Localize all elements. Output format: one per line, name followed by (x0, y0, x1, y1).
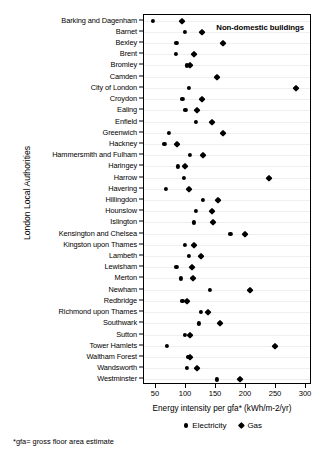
data-point-electricity (228, 232, 232, 236)
x-tick-mark (305, 384, 306, 388)
data-point-electricity (183, 108, 187, 112)
x-tick-mark (185, 384, 186, 388)
y-tick-label: City of London (91, 81, 137, 92)
y-tick-label: Enfield (115, 115, 137, 126)
data-point-gas (216, 320, 222, 326)
grid-line (144, 178, 310, 179)
data-point-gas (199, 29, 205, 35)
x-tick-mark (215, 384, 216, 388)
data-point-electricity (165, 344, 169, 348)
grid-line (144, 301, 310, 302)
y-tick-label: Tower Hamlets (89, 339, 137, 350)
grid-line (144, 290, 310, 291)
grid-line (144, 222, 310, 223)
legend-label-electricity: Electricity (192, 421, 226, 430)
legend-item-gas: Gas (239, 421, 262, 430)
data-point-electricity (185, 366, 189, 370)
data-point-gas (219, 40, 225, 46)
grid-line (144, 368, 310, 369)
x-tick-label: 50 (151, 389, 159, 398)
legend-item-electricity: Electricity (184, 421, 227, 430)
data-point-gas (187, 331, 193, 337)
grid-line (144, 323, 310, 324)
legend-label-gas: Gas (247, 421, 262, 430)
data-point-electricity (199, 310, 203, 314)
x-tick-label: 100 (179, 389, 192, 398)
data-point-gas (266, 174, 272, 180)
grid-line (144, 65, 310, 66)
y-tick-label: Westminster (97, 373, 137, 384)
x-tick-mark (245, 384, 246, 388)
data-point-gas (246, 286, 252, 292)
data-point-gas (204, 309, 210, 315)
grid-line (144, 99, 310, 100)
y-tick-label: Hounslow (105, 205, 137, 216)
data-point-gas (237, 376, 243, 382)
panel-title: Non-domestic buildings (216, 23, 304, 32)
grid-line (144, 211, 310, 212)
y-tick-label: Waltham Forest (87, 350, 137, 361)
data-point-gas (200, 152, 206, 158)
data-point-gas (174, 141, 180, 147)
y-tick-label: Islington (110, 216, 137, 227)
y-tick-label: Greenwich (103, 126, 137, 137)
footnote: *gfa= gross floor area estimate (13, 437, 114, 446)
data-point-gas (210, 219, 216, 225)
data-point-electricity (188, 153, 192, 157)
x-tick-label: 250 (269, 389, 282, 398)
grid-line (144, 245, 310, 246)
y-tick-label: Redbridge (104, 294, 137, 305)
grid-line (144, 122, 310, 123)
y-tick-label: Lambeth (109, 250, 137, 261)
y-axis-title: London Local Authorities (22, 113, 32, 273)
data-point-electricity (201, 198, 205, 202)
data-point-electricity (215, 377, 219, 381)
y-tick-label: Lewisham (105, 261, 137, 272)
data-point-gas (191, 242, 197, 248)
data-point-gas (191, 51, 197, 57)
grid-line (144, 278, 310, 279)
data-point-electricity (162, 142, 166, 146)
grid-line (144, 110, 310, 111)
y-tick-label: Bromley (111, 59, 137, 70)
y-tick-label: Southwark (103, 317, 137, 328)
y-tick-label: Haringey (108, 160, 137, 171)
data-point-gas (186, 62, 192, 68)
x-tick-mark (155, 384, 156, 388)
grid-line (144, 166, 310, 167)
y-tick-label: Merton (115, 272, 137, 283)
data-point-electricity (183, 243, 187, 247)
y-tick-label: Newham (108, 283, 137, 294)
y-tick-label: Barnet (116, 25, 137, 36)
data-point-gas (189, 275, 195, 281)
data-point-electricity (194, 119, 198, 123)
y-tick-label: Harrow (114, 171, 137, 182)
y-tick-label: Ealing (117, 104, 137, 115)
y-tick-label: Kingston upon Thames (63, 238, 137, 249)
grid-line (144, 54, 310, 55)
plot-area: Non-domestic buildings (143, 14, 311, 384)
x-axis-title: Energy intensity per gfa* (kWh/m-2/yr) (138, 404, 306, 413)
data-point-electricity (179, 276, 183, 280)
data-point-electricity (180, 97, 184, 101)
data-point-gas (293, 85, 299, 91)
grid-line (144, 267, 310, 268)
data-point-gas (209, 208, 215, 214)
data-point-gas (219, 129, 225, 135)
data-point-gas (194, 365, 200, 371)
grid-line (144, 256, 310, 257)
data-point-electricity (194, 209, 198, 213)
data-point-gas (194, 107, 200, 113)
data-point-electricity (174, 265, 178, 269)
data-point-gas (215, 197, 221, 203)
grid-line (144, 200, 310, 201)
y-tick-label: Havering (108, 182, 137, 193)
grid-line (144, 312, 310, 313)
y-tick-label: Barking and Dagenham (61, 14, 137, 25)
data-point-electricity (192, 220, 196, 224)
data-point-gas (186, 186, 192, 192)
grid-line (144, 32, 310, 33)
chart-figure: Barking and DagenhamBarnetBexleyBrentBro… (0, 0, 323, 458)
data-point-electricity (182, 175, 186, 179)
data-point-electricity (176, 164, 180, 168)
